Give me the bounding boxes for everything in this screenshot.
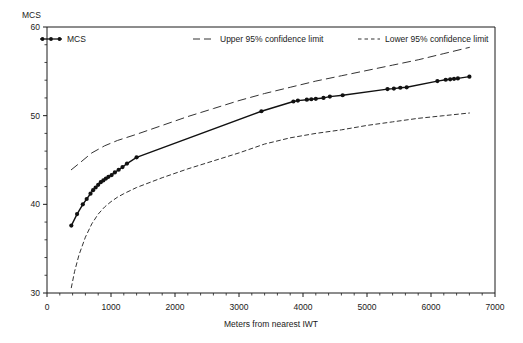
data-point-marker xyxy=(321,96,325,100)
x-tick-label: 4000 xyxy=(294,302,313,312)
y-tick-label: 40 xyxy=(31,199,41,209)
data-point-marker xyxy=(120,165,124,169)
y-tick-label: 60 xyxy=(31,22,41,32)
data-point-marker xyxy=(444,78,448,82)
data-point-marker xyxy=(328,95,332,99)
data-point-marker xyxy=(69,224,73,228)
data-point-marker xyxy=(467,75,471,79)
data-point-marker xyxy=(309,97,313,101)
data-point-marker xyxy=(291,99,295,103)
data-point-marker xyxy=(85,197,89,201)
x-tick-label: 2000 xyxy=(166,302,185,312)
x-tick-label: 0 xyxy=(45,302,50,312)
x-tick-label: 1000 xyxy=(102,302,121,312)
data-point-marker xyxy=(117,168,121,172)
data-point-marker xyxy=(398,86,402,90)
data-point-marker xyxy=(135,155,139,159)
x-tick-label: 7000 xyxy=(486,302,505,312)
x-tick-label: 5000 xyxy=(358,302,377,312)
data-point-marker xyxy=(75,212,79,216)
legend-label-mcs: MCS xyxy=(67,34,86,44)
data-point-marker xyxy=(81,202,85,206)
data-point-marker xyxy=(305,98,309,102)
chart-background xyxy=(0,0,523,343)
data-point-marker xyxy=(296,98,300,102)
y-tick-label: 50 xyxy=(31,111,41,121)
data-point-marker xyxy=(385,87,389,91)
legend-marker-dot xyxy=(41,37,45,41)
data-point-marker xyxy=(405,85,409,89)
data-point-marker xyxy=(341,93,345,97)
data-point-marker xyxy=(259,109,263,113)
y-tick-label: 30 xyxy=(31,288,41,298)
legend-marker-dot xyxy=(49,37,53,41)
data-point-marker xyxy=(392,87,396,91)
data-point-marker xyxy=(113,170,117,174)
mcs-distance-line-chart: MCS 30405060 010002000300040005000600070… xyxy=(0,0,523,343)
x-tick-label: 6000 xyxy=(422,302,441,312)
data-point-marker xyxy=(435,79,439,83)
data-point-marker xyxy=(448,77,452,81)
x-axis-title: Meters from nearest IWT xyxy=(224,319,318,329)
data-point-marker xyxy=(125,161,129,165)
data-point-marker xyxy=(452,77,456,81)
chart-container: MCS 30405060 010002000300040005000600070… xyxy=(0,0,523,343)
data-point-marker xyxy=(456,76,460,80)
x-tick-label: 3000 xyxy=(230,302,249,312)
data-point-marker xyxy=(314,97,318,101)
legend-label-upper-limit: Upper 95% confidence limit xyxy=(220,34,324,44)
legend-label-lower-limit: Lower 95% confidence limit xyxy=(385,34,489,44)
data-point-marker xyxy=(88,192,92,196)
y-axis-title: MCS xyxy=(22,10,41,20)
legend-marker-dot xyxy=(58,37,62,41)
